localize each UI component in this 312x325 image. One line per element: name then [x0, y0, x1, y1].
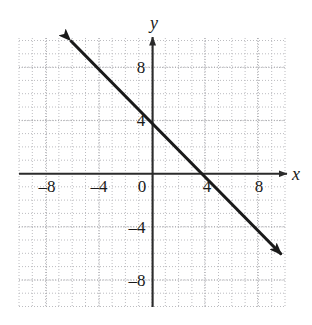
- x-axis-label: x: [291, 164, 300, 184]
- y-tick-label--8: –8: [128, 271, 146, 290]
- x-tick-label--4: –4: [90, 177, 109, 196]
- x-tick-label--8: –8: [38, 177, 56, 196]
- y-tick-label-8: 8: [137, 58, 146, 77]
- x-tick-label-8: 8: [255, 177, 264, 196]
- x-tick-label-0: 0: [138, 177, 147, 196]
- y-axis-label: y: [148, 13, 158, 33]
- y-tick-label--4: –4: [128, 218, 147, 237]
- y-tick-label-4: 4: [137, 111, 146, 130]
- coordinate-plane-svg: x y –8 –4 0 4 8 8 4 –4 –8: [0, 0, 312, 325]
- x-tick-label-4: 4: [203, 177, 212, 196]
- graph-figure: x y –8 –4 0 4 8 8 4 –4 –8: [0, 0, 312, 325]
